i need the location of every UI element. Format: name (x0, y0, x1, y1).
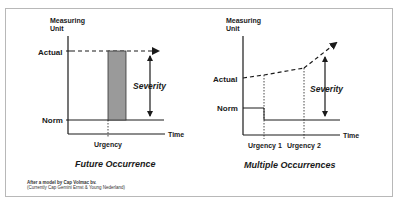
multiple-occurrences-diagram: Measuring Unit Time Actual Norm Urgency … (213, 17, 359, 170)
left-norm-label: Norm (42, 116, 63, 125)
left-severity-label: Severity (133, 81, 167, 91)
left-y-axis-label-1: Measuring (50, 17, 85, 25)
right-severity-label: Severity (310, 84, 344, 94)
diagram-canvas: Measuring Unit Time Actual Norm Urgency … (0, 0, 398, 210)
left-actual-label: Actual (38, 48, 62, 57)
right-time-label: Time (343, 132, 359, 139)
future-occurrence-diagram: Measuring Unit Time Actual Norm Urgency … (38, 17, 184, 169)
left-y-axis-label-2: Unit (50, 25, 64, 32)
right-y-axis-label-1: Measuring (226, 17, 261, 25)
left-diagram-title: Future Occurrence (75, 159, 156, 169)
right-urgency2-label: Urgency 2 (287, 142, 321, 150)
left-urgency-label: Urgency (94, 141, 122, 149)
right-urgency1-label: Urgency 1 (248, 142, 282, 150)
left-gap-bar (108, 51, 126, 120)
right-diagram-title: Multiple Occurrences (244, 160, 336, 170)
left-time-label: Time (168, 131, 184, 138)
right-y-axis-label-2: Unit (226, 25, 240, 32)
right-actual-label: Actual (213, 75, 237, 84)
right-actual-trend-arrow (304, 43, 336, 68)
right-actual-dashed-line (243, 68, 304, 78)
right-norm-label: Norm (217, 104, 238, 113)
credit-line-2: (Currently Cap Gemini Ernst & Young Nede… (27, 185, 125, 190)
